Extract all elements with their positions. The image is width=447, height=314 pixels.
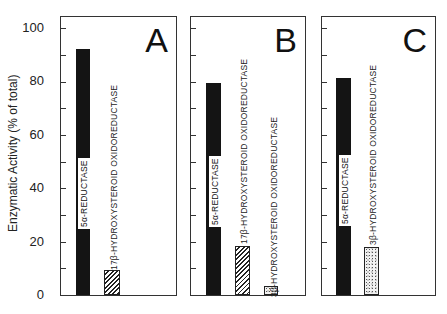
- tick-mark: [322, 55, 327, 56]
- bar-17b-hsd: [104, 270, 120, 295]
- tick-mark: [322, 108, 327, 109]
- bar-label-3b-hsd: 3β-HYDROXYSTEROID OXIDOREDUCTASE: [269, 117, 279, 297]
- tick-mark: [322, 135, 327, 136]
- y-tick-20: 20: [14, 234, 44, 249]
- y-tick-60: 60: [14, 127, 44, 142]
- y-tick-40: 40: [14, 180, 44, 195]
- tick-mark: [61, 28, 66, 29]
- y-tick-80: 80: [14, 73, 44, 88]
- tick-mark: [322, 215, 327, 216]
- tick-mark: [191, 28, 196, 29]
- tick-mark: [61, 55, 66, 56]
- panel-letter-b: B: [274, 23, 297, 57]
- tick-mark: [322, 162, 327, 163]
- tick-mark: [191, 242, 196, 243]
- panel-c: C 5α-REDUCTASE 3β-HYDROXYSTEROID OXIDORE…: [321, 16, 436, 296]
- tick-mark: [61, 162, 66, 163]
- tick-mark: [191, 135, 196, 136]
- bar-label-3b-hsd: 3β-HYDROXYSTEROID OXIDOREDUCTASE: [368, 65, 378, 245]
- bar-17b-hsd: [235, 246, 250, 295]
- bar-label-17b-hsd: 17β-HYDROXYSTEROID OXIDOREDUCTASE: [109, 85, 119, 270]
- tick-mark: [322, 242, 327, 243]
- tick-mark: [61, 108, 66, 109]
- y-axis-label: Enzymatic Activity (% of total): [6, 75, 20, 232]
- tick-mark: [61, 268, 66, 269]
- panel-letter-a: A: [145, 23, 168, 57]
- bar-3b-hsd: [364, 247, 379, 295]
- tick-mark: [191, 215, 196, 216]
- tick-mark: [61, 135, 66, 136]
- tick-mark: [322, 28, 327, 29]
- tick-mark: [191, 268, 196, 269]
- tick-mark: [191, 188, 196, 189]
- tick-mark: [191, 162, 196, 163]
- bar-label-5a-reductase: 5α-REDUCTASE: [339, 155, 351, 226]
- panel-b: B 5α-REDUCTASE 17β-HYDROXYSTEROID OXIDOR…: [190, 16, 306, 296]
- bar-label-17b-hsd: 17β-HYDROXYSTEROID OXIDOREDUCTASE: [239, 59, 249, 244]
- tick-mark: [191, 82, 196, 83]
- tick-mark: [322, 268, 327, 269]
- tick-mark: [191, 55, 196, 56]
- tick-mark: [322, 188, 327, 189]
- panel-a: A 5α-REDUCTASE 17β-HYDROXYSTEROID OXIDOR…: [60, 16, 177, 296]
- tick-mark: [61, 242, 66, 243]
- tick-mark: [322, 82, 327, 83]
- tick-mark: [61, 82, 66, 83]
- y-tick-100: 100: [14, 20, 44, 35]
- tick-mark: [61, 188, 66, 189]
- panel-letter-c: C: [402, 23, 427, 57]
- tick-mark: [61, 215, 66, 216]
- y-tick-0: 0: [14, 287, 44, 302]
- bar-label-5a-reductase: 5α-REDUCTASE: [78, 158, 90, 229]
- tick-mark: [191, 108, 196, 109]
- bar-label-5a-reductase: 5α-REDUCTASE: [209, 156, 221, 227]
